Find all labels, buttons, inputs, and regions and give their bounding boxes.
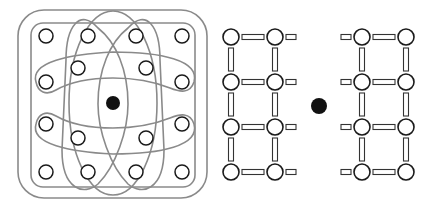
bond-vertical: [404, 93, 409, 116]
bond-vertical: [404, 48, 409, 71]
bond-vertical: [229, 93, 234, 116]
lattice-site: [71, 61, 85, 75]
bond-vertical: [404, 138, 409, 161]
lattice-site: [398, 119, 414, 135]
lattice-site: [81, 165, 95, 179]
bond-horizontal: [373, 35, 395, 40]
bond-vertical: [273, 93, 278, 116]
lattice-site: [129, 165, 143, 179]
lattice-site: [39, 165, 53, 179]
lattice-site: [175, 75, 189, 89]
bond-stub: [286, 170, 296, 175]
lattice-site: [223, 74, 239, 90]
lattice-site: [175, 29, 189, 43]
bond-vertical: [360, 93, 365, 116]
lattice-site: [267, 119, 283, 135]
bond-horizontal: [373, 80, 395, 85]
bond-stub: [286, 125, 296, 130]
lattice-site: [354, 74, 370, 90]
bond-stub: [341, 125, 351, 130]
lattice-site: [175, 165, 189, 179]
horizontal-band-top: [35, 52, 194, 93]
bond-horizontal: [242, 170, 264, 175]
bond-horizontal: [373, 170, 395, 175]
bond-stub: [341, 35, 351, 40]
horizontal-band-bottom: [35, 113, 194, 154]
center-site-dot: [106, 96, 120, 110]
lattice-site: [354, 119, 370, 135]
bond-stub: [341, 170, 351, 175]
bond-horizontal: [373, 125, 395, 130]
lattice-site: [223, 164, 239, 180]
bond-stub: [341, 80, 351, 85]
bond-vertical: [273, 138, 278, 161]
lattice-site: [398, 164, 414, 180]
lattice-site: [81, 29, 95, 43]
lattice-site: [398, 29, 414, 45]
lattice-site: [139, 61, 153, 75]
lattice-site: [267, 164, 283, 180]
lattice-site: [39, 75, 53, 89]
bond-vertical: [360, 48, 365, 71]
lattice-site: [267, 74, 283, 90]
center-site-dot: [311, 98, 327, 114]
lattice-site: [139, 131, 153, 145]
bond-stub: [286, 35, 296, 40]
bond-vertical: [229, 138, 234, 161]
lattice-site: [71, 131, 85, 145]
lattice-site: [39, 117, 53, 131]
lattice-site: [354, 29, 370, 45]
diagram-canvas: [0, 0, 434, 207]
bond-horizontal: [242, 125, 264, 130]
bond-vertical: [273, 48, 278, 71]
lattice-diagram: [0, 0, 434, 207]
bond-horizontal: [242, 80, 264, 85]
lattice-site: [39, 29, 53, 43]
lattice-site: [223, 119, 239, 135]
bond-vertical: [360, 138, 365, 161]
lattice-site: [129, 29, 143, 43]
bond-vertical: [229, 48, 234, 71]
lattice-site: [223, 29, 239, 45]
bond-horizontal: [242, 35, 264, 40]
lattice-site: [267, 29, 283, 45]
lattice-site: [398, 74, 414, 90]
lattice-site: [175, 117, 189, 131]
bond-stub: [286, 80, 296, 85]
lattice-site: [354, 164, 370, 180]
